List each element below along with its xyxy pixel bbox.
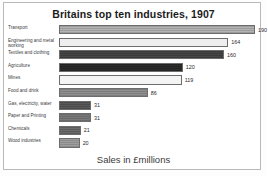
bar-row: Transport190: [8, 25, 260, 34]
bar-track: 20: [59, 138, 255, 147]
bar-value-label: 164: [231, 39, 240, 45]
bar[interactable]: [59, 63, 183, 72]
category-label: Agriculture: [8, 63, 58, 69]
bar-value-label: 31: [94, 102, 100, 108]
bar-value-label: 190: [258, 27, 267, 33]
bar-row: Gas, electricity, water31: [8, 101, 260, 110]
category-label: Paper and Printing: [8, 113, 58, 119]
bar-track: 190: [59, 25, 255, 34]
bar-value-label: 86: [151, 90, 157, 96]
category-label: Mines: [8, 75, 58, 81]
bar-track: 86: [59, 88, 255, 97]
bar-value-label: 119: [185, 77, 194, 83]
bar-track: 31: [59, 113, 255, 122]
category-label: Textiles and clothing: [8, 50, 58, 56]
bar-value-label: 21: [84, 127, 90, 133]
bar[interactable]: [59, 75, 182, 84]
bar[interactable]: [59, 38, 228, 47]
bar[interactable]: [59, 113, 91, 122]
bar-track: 164: [59, 38, 255, 47]
bar-track: 119: [59, 75, 255, 84]
bar-row: Mines119: [8, 75, 260, 84]
bar[interactable]: [59, 88, 148, 97]
category-label: Engineering and metal working: [8, 38, 58, 49]
bar-row: Engineering and metal working164: [8, 38, 260, 47]
bar-row: Textiles and clothing160: [8, 50, 260, 59]
bar[interactable]: [59, 138, 80, 147]
bar[interactable]: [59, 126, 81, 135]
chart-image: Britains top ten industries, 1907 Transp…: [0, 0, 267, 176]
bar-value-label: 20: [83, 140, 89, 146]
category-label: Gas, electricity, water: [8, 101, 58, 107]
bar-row: Paper and Printing31: [8, 113, 260, 122]
bar-value-label: 31: [94, 115, 100, 121]
category-label: Food and drink: [8, 88, 58, 94]
category-label: Wood industries: [8, 138, 58, 144]
category-label: Transport: [8, 25, 58, 31]
bar[interactable]: [59, 101, 91, 110]
x-axis-title: Sales in £millions: [0, 154, 267, 165]
bar-track: 160: [59, 50, 255, 59]
chart-title: Britains top ten industries, 1907: [0, 8, 267, 20]
bar[interactable]: [59, 25, 255, 34]
bar-track: 31: [59, 101, 255, 110]
bar-value-label: 160: [227, 52, 236, 58]
plot-area: Transport190Engineering and metal workin…: [8, 25, 260, 153]
bar-track: 21: [59, 126, 255, 135]
bar-track: 120: [59, 63, 255, 72]
bar-row: Agriculture120: [8, 63, 260, 72]
category-label: Chemicals: [8, 126, 58, 132]
bar-row: Wood industries20: [8, 138, 260, 147]
bar-row: Chemicals21: [8, 126, 260, 135]
bar-value-label: 120: [186, 64, 195, 70]
bar[interactable]: [59, 50, 224, 59]
bar-row: Food and drink86: [8, 88, 260, 97]
